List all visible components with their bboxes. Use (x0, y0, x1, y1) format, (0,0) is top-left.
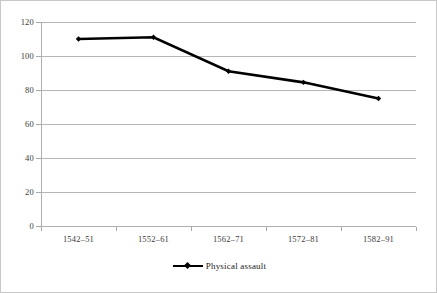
y-axis-tick-label: 40 (25, 154, 34, 163)
gridline-40 (41, 158, 416, 159)
y-axis-tick-label: 80 (25, 86, 34, 95)
gridline-100 (41, 56, 416, 57)
x-axis-tick-label: 1542–51 (63, 235, 94, 244)
y-axis-tick-label: 0 (30, 222, 34, 231)
y-tick-100 (36, 56, 41, 57)
gridline-120 (41, 22, 416, 23)
legend-label: Physical assault (206, 262, 266, 271)
y-axis-tick-label: 60 (25, 120, 34, 129)
x-tick (191, 227, 192, 231)
y-tick-20 (36, 192, 41, 193)
x-tick (41, 227, 42, 231)
y-tick-40 (36, 158, 41, 159)
x-axis-tick-label: 1552–61 (138, 235, 169, 244)
gridline-60 (41, 124, 416, 125)
gridline-80 (41, 90, 416, 91)
y-tick-60 (36, 124, 41, 125)
x-axis-tick-label: 1582–91 (363, 235, 394, 244)
y-tick-120 (36, 22, 41, 23)
y-axis-tick-label: 100 (21, 52, 34, 61)
gridline-20 (41, 192, 416, 193)
diamond-marker-icon (184, 262, 191, 269)
x-axis-tick-label: 1572–81 (288, 235, 319, 244)
y-axis-tick-label: 120 (21, 18, 34, 27)
y-axis-labels: 120 100 80 60 40 20 0 (1, 1, 34, 293)
chart-legend: Physical assault (1, 261, 437, 271)
x-axis-tick-label: 1562–71 (213, 235, 244, 244)
x-axis-line (41, 226, 416, 227)
legend-marker-icon (173, 261, 203, 271)
plot-area (41, 22, 416, 226)
y-axis-tick-label: 20 (25, 188, 34, 197)
y-tick-80 (36, 90, 41, 91)
x-tick (416, 227, 417, 231)
chart-container: 120 100 80 60 40 20 0 1542–51 1552–61 15… (0, 0, 437, 293)
y-axis-line (41, 22, 42, 227)
x-tick (341, 227, 342, 231)
x-tick (116, 227, 117, 231)
x-tick (266, 227, 267, 231)
